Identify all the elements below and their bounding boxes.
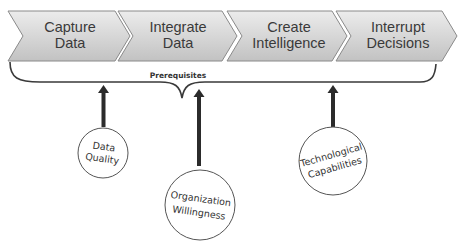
arrow-technological-capabilities [328,85,339,127]
arrow-organization-willingness [194,89,205,166]
prerequisite-organization-willingness: Organization Willingness [165,170,235,240]
step-label-line1: Interrupt [371,19,425,35]
process-step-integrate-data: Integrate Data [118,11,237,61]
prerequisite-technological-capabilities: Technological Capabilities [298,127,367,195]
step-label-line2: Data [163,35,195,51]
process-step-interrupt-decisions: Interrupt Decisions [336,11,457,61]
step-label-line2: Intelligence [252,35,325,51]
process-step-create-intelligence: Create Intelligence [227,11,347,61]
prerequisites-brace [10,62,436,98]
diagram-canvas: Capture Data Integrate Data Create Intel… [0,0,464,251]
prerequisite-data-quality: Data Quality [78,128,128,178]
process-step-capture-data: Capture Data [8,11,130,61]
step-label-line2: Decisions [367,35,430,51]
arrow-data-quality [98,85,109,127]
step-label-line1: Integrate [149,19,206,35]
step-label-line1: Capture [44,19,96,35]
step-label-line1: Create [267,19,311,35]
step-label-line2: Data [55,35,87,51]
prerequisites-label: Prerequisites [150,71,207,80]
